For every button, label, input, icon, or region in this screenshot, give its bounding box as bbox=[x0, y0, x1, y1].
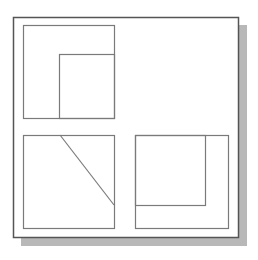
outer-frame bbox=[14, 18, 239, 238]
diagram-canvas bbox=[0, 0, 258, 260]
